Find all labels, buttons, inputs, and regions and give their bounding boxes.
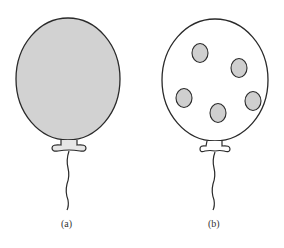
balloon-b [162, 19, 268, 210]
balloon-b-dot [192, 44, 208, 63]
balloon-a-body [16, 18, 120, 140]
figure-canvas [0, 0, 284, 248]
balloon-b-dot [176, 89, 192, 108]
balloon-b-dot [231, 59, 247, 78]
balloon-a [16, 18, 120, 210]
balloon-b-string [212, 152, 215, 210]
caption-a: (a) [61, 218, 72, 229]
balloon-b-dot [210, 104, 226, 123]
caption-b: (b) [208, 218, 220, 229]
balloon-a-string [66, 151, 69, 210]
balloon-a-knot [52, 140, 86, 151]
balloon-b-dot [245, 92, 261, 111]
balloon-b-knot [200, 141, 230, 152]
balloon-b-body [162, 19, 268, 141]
